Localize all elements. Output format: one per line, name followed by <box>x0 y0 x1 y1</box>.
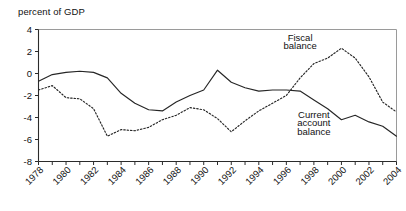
x-tick-label: 1986 <box>133 164 156 187</box>
x-tick-label: 2004 <box>381 164 404 187</box>
y-axis: 420-2-4-6-8 <box>24 24 39 167</box>
x-tick-label: 2000 <box>326 164 349 187</box>
x-tick-label: 1996 <box>271 164 294 187</box>
annotation-group: FiscalbalanceCurrentaccountbalance <box>283 32 330 138</box>
annotation-balance: balance <box>283 40 316 51</box>
x-tick-label: 1988 <box>160 164 183 187</box>
y-tick-label: -8 <box>24 156 32 167</box>
series-current-account-balance <box>39 70 397 136</box>
series-fiscal-balance <box>39 48 397 136</box>
y-tick-label: -2 <box>24 90 32 101</box>
x-tick-label: 1978 <box>23 164 46 187</box>
x-axis: 1978198019821984198619881990199219941996… <box>23 162 404 187</box>
y-tick-label: 0 <box>27 68 32 79</box>
y-tick-label: -6 <box>24 134 32 145</box>
y-tick-label: 4 <box>27 24 32 35</box>
x-tick-label: 1994 <box>243 164 266 187</box>
x-tick-label: 1980 <box>50 164 73 187</box>
line-chart: 420-2-4-6-8 1978198019821984198619881990… <box>0 0 406 211</box>
x-tick-label: 1984 <box>105 164 128 187</box>
x-tick-label: 2002 <box>353 164 376 187</box>
x-tick-label: 1982 <box>78 164 101 187</box>
x-tick-label: 1990 <box>188 164 211 187</box>
x-tick-label: 1998 <box>298 164 321 187</box>
series-group <box>39 48 397 136</box>
y-tick-label: 2 <box>27 46 32 57</box>
y-tick-label: -4 <box>24 112 32 123</box>
x-tick-label: 1992 <box>215 164 238 187</box>
chart-figure: percent of GDP 420-2-4-6-8 1978198019821… <box>0 0 406 211</box>
annotation-balance: balance <box>297 126 330 137</box>
